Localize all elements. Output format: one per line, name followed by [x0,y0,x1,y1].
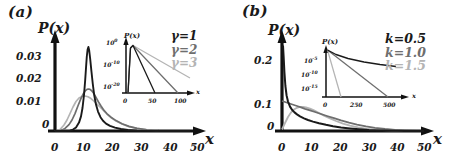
figure-container: (a) P(x) x 0.03 0.02 0.01 0 0 10 20 30 4… [0,0,456,167]
panel-b-legend-item-2: k=1.5 [385,59,426,73]
panel-b-legend: k=0.5 k=1.0 k=1.5 [385,32,426,73]
panel-a-inset-plot [0,0,228,167]
panel-b: (b) P(x) x 0.2 0.1 0 0 10 20 30 40 50 P(… [228,0,456,167]
panel-a-inset-x-axis-arrow [187,90,195,95]
panel-a-legend-item-1: γ=2 [171,44,197,58]
panel-a-legend-item-0: γ=1 [171,30,197,44]
panel-b-inset-curve-k15 [328,50,342,97]
panel-a-legend-item-2: γ=3 [171,57,197,71]
panel-a-legend: γ=1 γ=2 γ=3 [171,30,197,71]
panel-a-inset-y-axis-arrow [123,37,128,45]
panel-a: (a) P(x) x 0.03 0.02 0.01 0 0 10 20 30 4… [0,0,228,167]
panel-b-inset-x-axis-arrow [401,94,409,99]
panel-b-inset-plot [228,0,456,167]
panel-b-legend-item-0: k=0.5 [385,32,426,46]
panel-b-legend-item-1: k=1.0 [385,46,426,60]
panel-b-inset-curve-k10 [328,50,389,97]
panel-a-inset-curve-gamma1 [128,46,155,94]
